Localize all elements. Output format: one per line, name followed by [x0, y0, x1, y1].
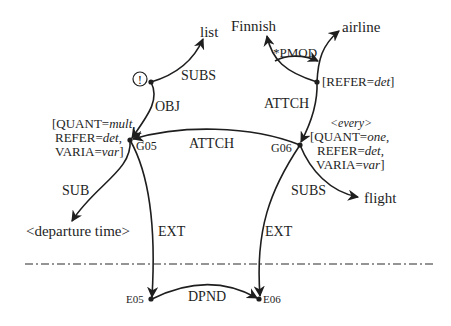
- node-dot-e06: [256, 296, 261, 301]
- node-label-g06: G06: [271, 141, 292, 155]
- edge-label-subs-flight: SUBS: [291, 183, 326, 198]
- g06-features-line-2: REFER=det,: [317, 143, 384, 158]
- edge-ext-g05: [130, 140, 153, 297]
- diagram-canvas: ! list Finnish airline flight <departure…: [0, 0, 451, 326]
- node-label-finnish: Finnish: [231, 18, 277, 34]
- g05-features-line-2: REFER=det,: [55, 130, 122, 145]
- edge-label-pmod: *PMOD: [273, 45, 317, 60]
- node-dot-airline: [314, 79, 319, 84]
- g05-features-line-1: [QUANT=mult,: [52, 116, 136, 131]
- edge-label-ext-g05: EXT: [158, 224, 186, 239]
- g06-features-line-3: VARIA=var]: [316, 157, 385, 172]
- node-dot-g05: [127, 137, 132, 142]
- node-label-g05: G05: [136, 139, 157, 153]
- node-label-departure-time: <departure time>: [26, 223, 130, 239]
- node-dot-e05: [148, 296, 153, 301]
- node-label-airline: airline: [342, 19, 381, 35]
- g05-features-line-3: VARIA=var]: [55, 144, 124, 159]
- node-label-flight: flight: [364, 190, 397, 206]
- edge-ext-g06: [259, 145, 300, 296]
- edge-label-obj: OBJ: [155, 99, 180, 114]
- g06-every-label: <every>: [330, 116, 372, 130]
- node-label-e06: E06: [263, 293, 281, 305]
- g06-features-line-1: [QUANT=one,: [310, 129, 389, 144]
- edge-label-subs-list: SUBS: [181, 68, 216, 83]
- edge-label-dpnd: DPND: [188, 289, 226, 304]
- airline-features: [REFER=det]: [322, 74, 394, 89]
- node-dot-excl: [148, 79, 153, 84]
- edge-label-sub-departure: SUB: [62, 183, 89, 198]
- node-label-list: list: [200, 24, 219, 40]
- edge-label-attch-g06-g05: ATTCH: [189, 136, 234, 151]
- exclamation-mark: !: [138, 72, 142, 87]
- edge-label-ext-g06: EXT: [265, 224, 293, 239]
- edge-label-attch-airline-g06: ATTCH: [264, 96, 309, 111]
- node-dot-g06: [297, 142, 302, 147]
- node-label-e05: E05: [126, 293, 144, 305]
